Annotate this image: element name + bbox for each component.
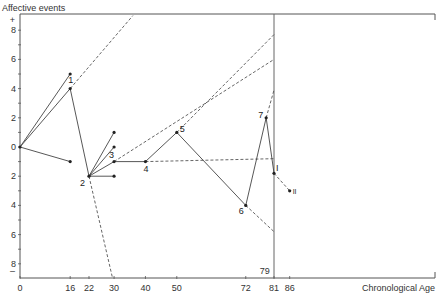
data-point (112, 160, 115, 163)
point-label: 5 (180, 124, 185, 134)
x-tick-label: 22 (84, 283, 94, 293)
projection-lines (70, 16, 290, 278)
labels: Affective eventsChronological Age8642024… (2, 3, 435, 293)
y-minus-sign: – (10, 266, 15, 276)
y-tick-label: 4 (11, 200, 16, 210)
data-point (288, 189, 291, 192)
y-tick-label: 0 (11, 142, 16, 152)
branch-line (20, 74, 70, 147)
point-label: 4 (143, 164, 148, 174)
point-label: 7 (258, 110, 263, 120)
projection-line (274, 173, 290, 191)
x-tick-label: 50 (172, 283, 182, 293)
data-point (69, 87, 72, 90)
projection-line (89, 176, 113, 278)
x-tick-label: 81 (269, 283, 279, 293)
projection-line (246, 205, 274, 231)
data-point (112, 145, 115, 148)
y-tick-label: 2 (11, 113, 16, 123)
x-tick-label: 86 (285, 283, 295, 293)
data-point (244, 204, 247, 207)
data-point (112, 131, 115, 134)
data-point (265, 116, 268, 119)
point-label: I (276, 163, 279, 173)
data-point (18, 145, 21, 148)
point-label: 1 (68, 75, 73, 85)
y-tick-label: 4 (11, 84, 16, 94)
x-marker-label: 79 (260, 266, 270, 276)
x-tick-label: 0 (17, 283, 22, 293)
y-axis-label: Affective events (2, 3, 66, 13)
point-label: 3 (109, 150, 114, 160)
x-axis-label: Chronological Age (362, 283, 435, 293)
axes (18, 14, 435, 279)
x-tick-label: 30 (109, 283, 119, 293)
x-tick-label: 72 (241, 283, 251, 293)
point-label: II (293, 188, 297, 195)
data-point (112, 175, 115, 178)
y-tick-label: 8 (11, 25, 16, 35)
projection-line (145, 159, 274, 162)
data-point (87, 175, 90, 178)
data-point (175, 131, 178, 134)
point-label: 2 (80, 178, 85, 188)
point-label: 6 (239, 206, 244, 216)
main-path (20, 89, 274, 206)
projection-line (114, 59, 274, 161)
y-plus-sign: + (10, 15, 15, 25)
y-tick-label: 6 (11, 230, 16, 240)
projection-line (266, 90, 274, 118)
branch-lines (20, 74, 114, 176)
projection-line (70, 16, 133, 89)
x-tick-label: 40 (140, 283, 150, 293)
main-path-line (20, 89, 274, 206)
y-tick-label: 6 (11, 54, 16, 64)
branch-line (20, 147, 70, 162)
x-tick-label: 16 (65, 283, 75, 293)
affective-events-chart: Affective eventsChronological Age8642024… (0, 0, 444, 294)
y-tick-label: 2 (11, 171, 16, 181)
data-point (69, 160, 72, 163)
